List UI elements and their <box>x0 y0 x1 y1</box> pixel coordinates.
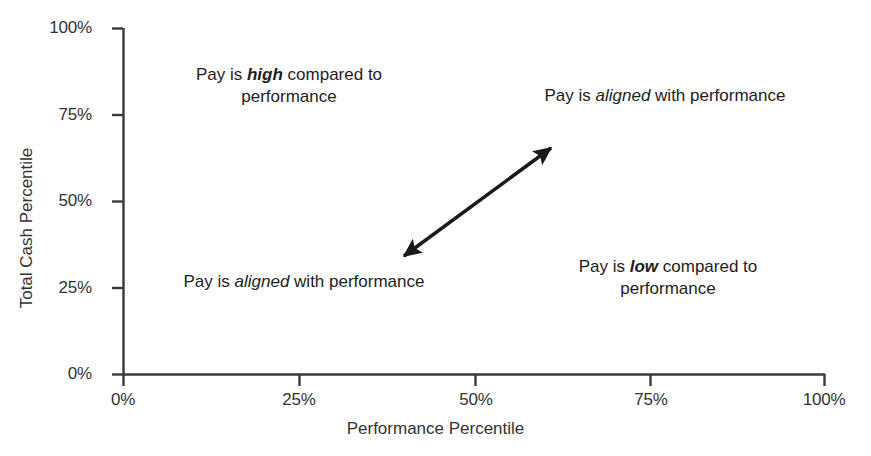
quadrant-top-right-line1: Pay is aligned with performance <box>545 85 786 107</box>
text-post: with performance <box>289 272 424 291</box>
y-tick-label-0: 0% <box>68 364 92 384</box>
quadrant-label-bottom-right: Pay is low compared to performance <box>579 256 758 301</box>
plot-area <box>0 0 871 456</box>
text-post: with performance <box>650 86 785 105</box>
x-axis-ticks <box>124 374 825 386</box>
x-axis-title: Performance Percentile <box>0 419 871 439</box>
alignment-arrow <box>404 148 551 256</box>
quadrant-top-left-line2: performance <box>196 86 382 108</box>
quadrant-top-left-line1: Pay is high compared to <box>196 64 382 86</box>
y-axis-title: Total Cash Percentile <box>12 0 42 456</box>
x-tick-label-75: 75% <box>634 390 667 410</box>
quadrant-bottom-right-line1: Pay is low compared to <box>579 256 758 278</box>
x-tick-label-100: 100% <box>803 390 846 410</box>
emphasis-aligned: aligned <box>235 272 290 291</box>
text-post: compared to <box>658 257 757 276</box>
quadrant-bottom-right-line2: performance <box>579 278 758 300</box>
text-pre: Pay is <box>545 86 596 105</box>
x-tick-label-25: 25% <box>282 390 315 410</box>
quadrant-label-bottom-left: Pay is aligned with performance <box>184 271 425 293</box>
x-tick-label-0: 0% <box>111 390 135 410</box>
chart-container: 100% 75% 50% 25% 0% 0% 25% 50% 75% 100% … <box>0 0 871 456</box>
text-pre: Pay is <box>579 257 630 276</box>
emphasis-aligned: aligned <box>596 86 651 105</box>
text-pre: Pay is <box>196 65 247 84</box>
y-tick-label-100: 100% <box>49 18 92 38</box>
text-post: compared to <box>283 65 382 84</box>
emphasis-low: low <box>630 257 658 276</box>
y-axis-ticks <box>112 29 123 375</box>
x-tick-label-50: 50% <box>459 390 492 410</box>
emphasis-high: high <box>247 65 283 84</box>
quadrant-label-top-right: Pay is aligned with performance <box>545 85 786 107</box>
quadrant-bottom-left-line1: Pay is aligned with performance <box>184 271 425 293</box>
y-tick-label-50: 50% <box>59 191 92 211</box>
text-pre: Pay is <box>184 272 235 291</box>
quadrant-label-top-left: Pay is high compared to performance <box>196 64 382 109</box>
y-tick-label-75: 75% <box>59 105 92 125</box>
y-tick-label-25: 25% <box>59 278 92 298</box>
